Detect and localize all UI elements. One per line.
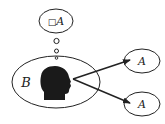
arrow-to-target-2 <box>73 79 130 103</box>
thought-dot-tiny <box>55 57 58 60</box>
arrow-to-target-1 <box>73 60 130 79</box>
box-operator: □ <box>48 17 57 27</box>
head-silhouette-icon <box>40 66 71 100</box>
thought-dot-small <box>55 49 59 53</box>
thought-dot-large <box>54 38 59 43</box>
target-ellipse-2: A <box>124 92 160 116</box>
thought-bubble: □A <box>39 9 73 59</box>
target-ellipse-1: A <box>124 49 160 73</box>
diagram-canvas: □A B A A <box>0 0 165 124</box>
svg-text:□A: □A <box>48 15 65 28</box>
agent-label: B <box>20 75 31 90</box>
bubble-label: A <box>55 15 64 28</box>
target-label-1: A <box>137 55 146 68</box>
target-label-2: A <box>137 98 146 111</box>
